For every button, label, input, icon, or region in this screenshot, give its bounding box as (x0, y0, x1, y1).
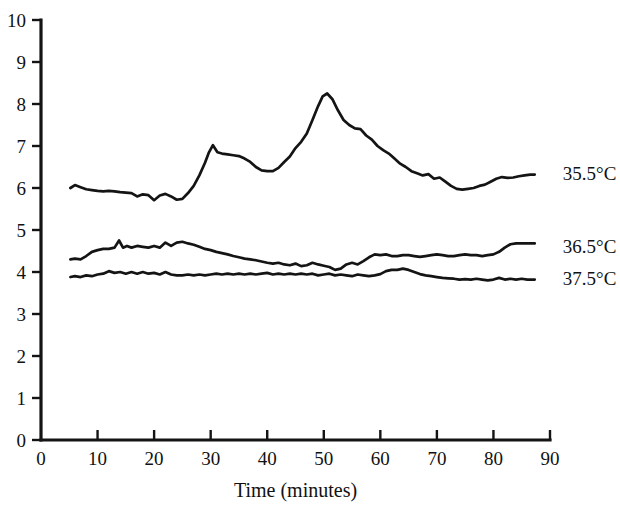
y-axis-tick-label: 10 (7, 10, 26, 31)
x-axis-tick-label: 10 (88, 448, 107, 469)
series-label-36.5°C: 36.5°C (563, 236, 617, 257)
y-axis-tick-label: 5 (17, 220, 27, 241)
series-line-35.5°C (70, 94, 534, 201)
y-axis-tick-label: 4 (17, 262, 27, 283)
series-labels: 35.5°C36.5°C37.5°C (563, 163, 617, 289)
line-chart: 012345678910 0102030405060708090 35.5°C3… (0, 0, 620, 506)
x-axis-tick-label: 0 (36, 448, 46, 469)
y-axis-tick-label: 8 (17, 94, 27, 115)
series-layer (70, 94, 534, 281)
y-axis-tick-label: 2 (17, 346, 27, 367)
y-axis-tick-label: 9 (17, 52, 27, 73)
x-axis-tick-label: 30 (201, 448, 220, 469)
x-axis-tick-label: 90 (541, 448, 560, 469)
x-axis-tick-label: 60 (371, 448, 390, 469)
x-axis-tick-label: 50 (314, 448, 333, 469)
x-axis-tick-label: 70 (427, 448, 446, 469)
y-axis: 012345678910 (7, 10, 41, 451)
series-label-37.5°C: 37.5°C (563, 268, 617, 289)
series-label-35.5°C: 35.5°C (563, 163, 617, 184)
chart-figure: 012345678910 0102030405060708090 35.5°C3… (0, 0, 620, 506)
y-axis-tick-label: 0 (17, 430, 27, 451)
x-axis-tick-label: 80 (484, 448, 503, 469)
y-axis-tick-label: 6 (17, 178, 27, 199)
series-line-36.5°C (70, 241, 534, 270)
y-axis-tick-label: 7 (17, 136, 27, 157)
x-axis-title: Time (minutes) (234, 479, 357, 502)
x-axis-tick-label: 40 (258, 448, 277, 469)
y-axis-tick-label: 3 (17, 304, 27, 325)
x-axis: 0102030405060708090 (36, 430, 559, 469)
series-line-37.5°C (70, 269, 534, 281)
x-axis-tick-label: 20 (145, 448, 164, 469)
y-axis-tick-label: 1 (17, 388, 27, 409)
